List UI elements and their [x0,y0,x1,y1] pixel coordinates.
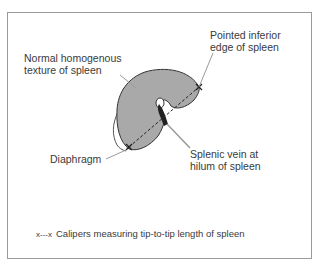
leader-vein [167,124,190,148]
legend-text: Calipers measuring tip-to-tip length of … [56,228,245,239]
label-edge-line2: edge of spleen [210,41,281,53]
label-texture: Normal homogenous texture of spleen [24,52,121,76]
label-diaphragm: Diaphragm [50,153,101,165]
leader-edge [199,53,213,87]
leader-diaphragm [106,150,126,159]
label-edge-line1: Pointed inferior [210,29,281,41]
legend: x---xCalipers measuring tip-to-tip lengt… [36,228,245,239]
label-inferior-edge: Pointed inferior edge of spleen [210,29,281,53]
label-texture-line1: Normal homogenous [24,52,121,64]
label-vein-line1: Splenic vein at [190,148,261,160]
label-splenic-vein: Splenic vein at hilum of spleen [190,148,261,172]
label-vein-line2: hilum of spleen [190,160,261,172]
caliper-legend-icon: x---x [36,230,52,239]
label-texture-line2: texture of spleen [24,64,121,76]
